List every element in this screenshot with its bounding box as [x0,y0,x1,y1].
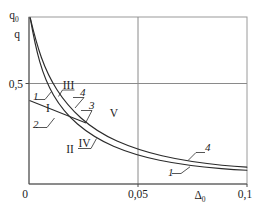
y-tick-label-0.5: 0,5 [9,78,24,91]
x-tick-label-0.05: 0,05 [128,188,148,201]
curve-label-4-top: 4 [80,86,86,98]
leader-region-IV [91,139,97,149]
y-axis-name: q [14,28,20,41]
plot-svg: q0​ q 0,5 0 0,05 0,1 Δ0 1 2 3 4 4 1 I II… [0,0,263,223]
region-label-IV: IV [78,137,91,149]
curve-label-4-right: 4 [205,141,211,153]
curve-label-2: 2 [33,118,39,130]
y-axis-top-label: q0​ [9,9,19,24]
x-axis-name: Δ0 [194,189,205,204]
curve-label-3: 3 [88,99,95,111]
leader-curve-4-right [188,153,205,161]
leader-curve-2 [36,118,55,128]
curve-label-1-left: 1 [33,90,39,102]
region-label-V: V [110,107,119,119]
region-label-III: III [63,79,75,91]
leader-curve-3 [81,111,92,123]
leader-curve-1-right [172,167,190,174]
chart-figure: q0​ q 0,5 0 0,05 0,1 Δ0 1 2 3 4 4 1 I II… [0,0,263,223]
curve-label-1-right: 1 [168,166,174,178]
region-label-II: II [66,143,74,155]
leader-curve-4-top [73,98,84,109]
region-label-I: I [46,102,50,114]
x-origin-label: 0 [22,188,28,200]
x-tick-label-0.1: 0,1 [238,188,253,201]
